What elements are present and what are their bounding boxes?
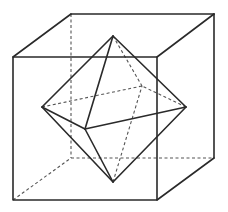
diagram-canvas: [0, 0, 228, 212]
cube-edge-depth-bottom-right: [157, 158, 214, 200]
octahedron-visible-edges: [42, 36, 186, 182]
cube-edge-depth-top-left: [13, 14, 71, 57]
octahedron-edge-top-right: [113, 36, 186, 107]
octahedron-edge-left-front: [42, 107, 85, 129]
octahedron-edge-right-front: [85, 107, 186, 129]
cube-edge-depth-top-right: [157, 14, 214, 57]
octahedron-hidden-edge-right-back: [142, 86, 186, 107]
octahedron-edge-bottom-left: [42, 107, 113, 182]
cube-hidden-edge-depth-bottom-left: [13, 158, 71, 200]
octahedron-hidden-edges: [42, 36, 186, 182]
octahedron-edge-bottom-front: [85, 129, 113, 182]
